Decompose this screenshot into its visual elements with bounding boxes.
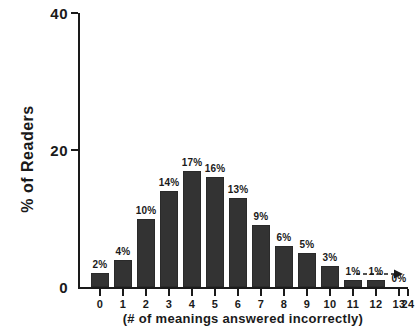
y-axis-tick-label-0: 0 [59,279,68,296]
y-axis-tick-label-20: 20 [50,142,68,159]
bar-value-label-8: 6% [277,232,292,243]
bar-12 [367,280,385,287]
x-axis-tick-0 [99,289,101,296]
x-axis-tick-7 [260,289,262,296]
x-axis-tick-label-24: 24 [401,298,414,310]
bar-value-label-4: 17% [182,157,203,168]
zero-tail-arrow-icon [356,268,404,280]
bar-value-label-5: 16% [205,163,226,174]
bar-value-label-2: 10% [136,205,157,216]
x-axis-title: (# of meanings answered incorrectly) [78,311,408,326]
bar-value-label-9: 5% [300,239,315,250]
bar-10 [321,266,339,287]
bar-9 [298,253,316,287]
bar-2 [137,219,155,288]
bar-value-label-6: 13% [228,184,249,195]
x-axis-tick-8 [283,289,285,296]
y-axis-line [78,13,80,288]
y-axis-title: % of Readers [19,79,37,239]
bar-value-label-7: 9% [254,211,269,222]
x-axis-tick-4 [191,289,193,296]
x-axis-tick-5 [214,289,216,296]
x-axis-tick-label-12: 12 [369,298,382,310]
x-axis-tick-11 [352,289,354,296]
x-axis-tick-label-6: 6 [235,298,242,310]
bar-0 [91,273,109,287]
x-axis-tick-label-1: 1 [120,298,127,310]
bar-1 [114,260,132,287]
x-axis-tick-label-3: 3 [166,298,173,310]
x-axis-tick-6 [237,289,239,296]
x-axis-tick-label-7: 7 [258,298,265,310]
y-axis-tick-label-40: 40 [50,5,68,22]
bar-value-label-0: 2% [93,259,108,270]
x-axis-tick-label-10: 10 [323,298,336,310]
bar-8 [275,246,293,287]
bar-value-label-3: 14% [159,177,180,188]
y-axis-tick-40 [71,12,78,14]
y-axis-tick-20 [71,149,78,151]
x-axis-line [78,287,408,289]
x-axis-tick-label-11: 11 [347,298,359,310]
x-axis-tick-label-0: 0 [97,298,104,310]
x-axis-tick-label-4: 4 [189,298,196,310]
x-axis-tick-9 [306,289,308,296]
x-axis-tick-3 [168,289,170,296]
x-axis-tick-1 [122,289,124,296]
bar-4 [183,171,201,287]
bar-11 [344,280,362,287]
x-axis-tick-24 [407,289,409,296]
x-axis-tick-label-9: 9 [304,298,311,310]
x-axis-tick-label-2: 2 [143,298,150,310]
bar-5 [206,177,224,287]
bar-7 [252,225,270,287]
bar-6 [229,198,247,287]
x-axis-tick-label-5: 5 [212,298,219,310]
x-axis-tick-10 [329,289,331,296]
bar-value-label-1: 4% [116,246,131,257]
x-axis-tick-12 [375,289,377,296]
x-axis-tick-2 [145,289,147,296]
bar-chart: 02040 01234567891011121324 2%4%10%14%17%… [0,0,417,333]
bar-value-label-10: 3% [323,252,338,263]
x-axis-tick-label-8: 8 [281,298,288,310]
bar-3 [160,191,178,287]
x-axis-tick-13 [398,289,400,296]
